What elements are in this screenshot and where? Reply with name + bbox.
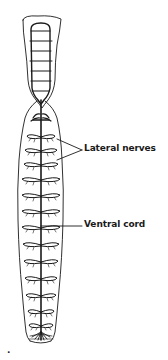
figure-mark: . — [7, 345, 10, 355]
worm-diagram — [0, 0, 168, 360]
tail-outline — [30, 341, 51, 343]
ventral-cord-label: Ventral cord — [84, 219, 145, 229]
lateral-nerves-label: Lateral nerves — [84, 143, 156, 153]
pharynx-outline — [31, 23, 50, 104]
pharynx-rings — [30, 31, 52, 91]
head-sheath-outline — [23, 16, 61, 108]
